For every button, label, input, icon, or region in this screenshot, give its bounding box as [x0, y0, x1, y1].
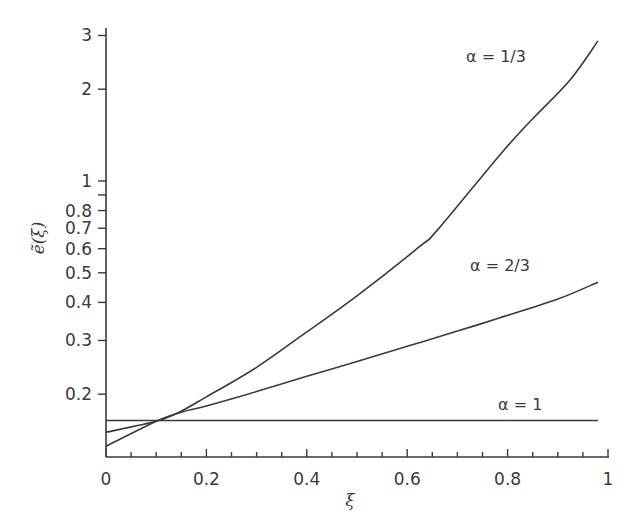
curves	[106, 41, 598, 446]
y-tick-label: 1	[81, 171, 92, 191]
y-tick-label: 0.5	[65, 263, 92, 283]
y-tick-label: 0.8	[65, 201, 92, 221]
x-tick-label: 0.6	[394, 469, 421, 489]
x-tick-label: 0.2	[193, 469, 220, 489]
y-ticks	[98, 35, 106, 394]
curve-label-3: α = 1	[498, 395, 542, 414]
y-tick-label: 3	[81, 25, 92, 45]
x-tick-label: 0	[101, 469, 112, 489]
curve-label-2: α = 2/3	[470, 256, 530, 275]
y-tick-label: 0.2	[65, 384, 92, 404]
x-tick-labels: 00.20.40.60.81	[101, 469, 614, 489]
chart: 00.20.40.60.81 0.20.30.40.50.60.70.8123 …	[0, 0, 643, 528]
curve-series-1	[106, 41, 598, 446]
y-tick-label: 0.7	[65, 218, 92, 238]
x-ticks	[106, 449, 608, 457]
x-axis-label: ξ	[345, 490, 356, 510]
x-tick-label: 0.8	[494, 469, 521, 489]
y-tick-label: 2	[81, 79, 92, 99]
x-tick-label: 0.4	[293, 469, 320, 489]
x-tick-label: 1	[603, 469, 614, 489]
y-tick-label: 0.6	[65, 239, 92, 259]
y-tick-label: 0.3	[65, 330, 92, 350]
y-axis-label: ẽ(ξ)	[28, 222, 48, 255]
curve-labels: α = 1/3α = 2/3α = 1	[466, 47, 542, 414]
curve-label-1: α = 1/3	[466, 47, 526, 66]
y-tick-label: 0.4	[65, 292, 92, 312]
axes	[106, 28, 609, 457]
y-tick-labels: 0.20.30.40.50.60.70.8123	[65, 25, 92, 404]
